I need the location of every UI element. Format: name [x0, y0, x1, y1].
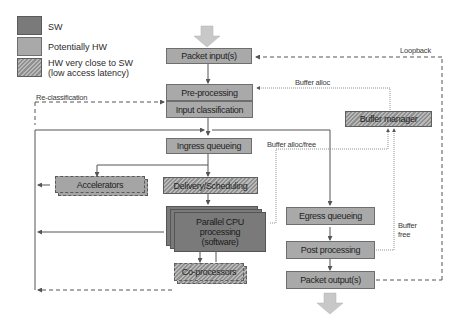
node-parallel-cpu: Parallel CPU processing (software) — [174, 212, 266, 252]
node-delivery-scheduling: Delivery/Scheduling — [163, 177, 258, 194]
node-post-processing: Post processing — [286, 241, 375, 259]
legend-label-potentially-hw: Potentially HW — [48, 42, 107, 52]
node-pre-processing: Pre-processing — [166, 84, 253, 101]
node-buffer-manager: Buffer manager — [345, 111, 432, 127]
node-co-processors: Co-processors — [174, 263, 244, 281]
node-input-classification: Input classification — [166, 101, 253, 118]
label-buffer-alloc-free: Buffer alloc/free — [267, 140, 316, 149]
parallel-cpu-line3: (software) — [201, 237, 238, 247]
node-packet-output: Packet output(s) — [286, 271, 375, 289]
node-egress-queueing: Egress queueing — [286, 207, 375, 225]
label-buffer-alloc: Buffer alloc — [295, 78, 330, 87]
legend-swatch-sw — [17, 16, 42, 35]
legend-label-hatched-line1: HW very close to SW — [48, 58, 133, 68]
label-re-classification: Re-classification — [36, 93, 87, 102]
label-buffer-free-line2: free — [398, 230, 410, 239]
node-accelerators: Accelerators — [55, 176, 145, 193]
node-ingress-queueing: Ingress queueing — [166, 138, 252, 154]
legend-label-sw: SW — [48, 22, 63, 32]
legend-label-hatched-line2: (low access latency) — [48, 68, 129, 78]
parallel-cpu-line2: processing — [200, 227, 241, 237]
label-loopback: Loopback — [400, 46, 431, 55]
node-packet-input: Packet input(s) — [166, 48, 252, 64]
parallel-cpu-line1: Parallel CPU — [196, 217, 244, 227]
legend-swatch-hatched — [17, 58, 42, 77]
legend-swatch-potentially-hw — [17, 37, 42, 56]
label-buffer-free-line1: Buffer — [398, 221, 417, 230]
